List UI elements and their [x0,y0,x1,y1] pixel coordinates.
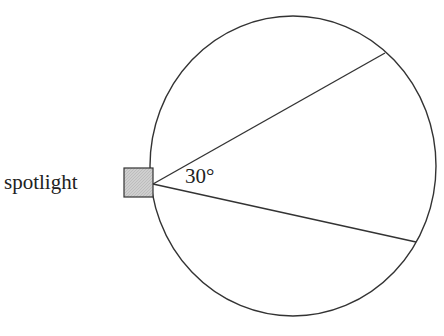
diagram-canvas [0,0,444,336]
spotlight-label: spotlight [4,170,78,195]
spotlight-diagram: spotlight 30° [0,0,444,336]
angle-label: 30° [185,164,214,189]
spotlight-icon [124,168,153,197]
lower-beam-line [153,184,416,242]
